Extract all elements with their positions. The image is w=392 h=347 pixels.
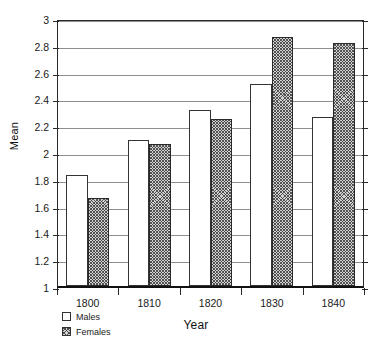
bar-1830-males xyxy=(250,84,272,286)
legend-item-females: Females xyxy=(62,325,111,338)
y-tick-label: 1.4 xyxy=(19,228,49,240)
x-tick-label: 1800 xyxy=(63,297,113,309)
bar-1800-males xyxy=(66,175,88,286)
bar-1810-females xyxy=(149,144,171,286)
legend-item-males: Males xyxy=(62,310,111,323)
bar-1840-females xyxy=(333,43,355,286)
plot-area xyxy=(57,20,364,288)
x-tick-label: 1810 xyxy=(124,297,174,309)
bar-1800-females xyxy=(88,198,110,286)
x-tick-label: 1830 xyxy=(247,297,297,309)
bar-1830-females xyxy=(272,37,294,286)
y-tick-label: 2.8 xyxy=(19,41,49,53)
y-tick-label: 2.6 xyxy=(19,68,49,80)
y-tick-label: 1.2 xyxy=(19,255,49,267)
y-tick-label: 1 xyxy=(19,282,49,294)
legend: Males Females xyxy=(62,310,111,340)
y-tick-mark xyxy=(53,289,59,290)
legend-label-males: Males xyxy=(76,312,100,322)
y-tick-label: 2 xyxy=(19,148,49,160)
bar-chart: Mean 11.21.41.61.822.22.42.62.83 1800181… xyxy=(0,0,392,347)
bars-layer xyxy=(58,21,363,286)
y-tick-label: 1.6 xyxy=(19,202,49,214)
legend-swatch-males-icon xyxy=(62,312,71,321)
x-tick-mark xyxy=(241,288,242,295)
x-tick-mark xyxy=(180,288,181,295)
y-tick-label: 2.2 xyxy=(19,121,49,133)
x-tick-mark xyxy=(364,288,365,295)
x-tick-mark xyxy=(57,288,58,295)
x-tick-label: 1820 xyxy=(186,297,236,309)
x-tick-label: 1840 xyxy=(308,297,358,309)
bar-1840-males xyxy=(312,117,334,286)
legend-label-females: Females xyxy=(76,327,111,337)
x-tick-mark xyxy=(118,288,119,295)
x-tick-mark xyxy=(303,288,304,295)
bar-1810-males xyxy=(128,140,150,286)
bar-1820-males xyxy=(189,110,211,286)
legend-swatch-females-icon xyxy=(62,327,71,336)
x-axis-title: Year xyxy=(0,318,392,332)
y-tick-label: 2.4 xyxy=(19,94,49,106)
y-tick-label: 3 xyxy=(19,14,49,26)
bar-1820-females xyxy=(211,119,233,287)
y-tick-label: 1.8 xyxy=(19,175,49,187)
y-tick-mark xyxy=(362,289,368,290)
